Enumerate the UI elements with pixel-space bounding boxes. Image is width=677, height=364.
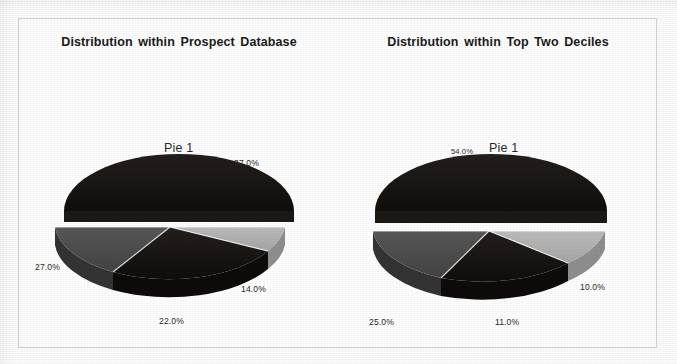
pie-right-slice-54-wall	[375, 211, 607, 223]
clipped-header-strip: ghost clipped header line	[0, 0, 677, 9]
pie-left-svg	[25, 105, 335, 335]
pie-left-label-14: 14.0%	[241, 284, 266, 294]
pie-left-slice-37-wall-left	[64, 211, 179, 222]
pie-series-label-right: Pie 1	[489, 141, 519, 155]
pie-right-slice-54	[375, 154, 607, 211]
figure-frame: Distribution within Prospect Database	[18, 18, 657, 348]
chart-title-left: Distribution within Prospect Database	[19, 35, 339, 49]
pie-right-svg	[345, 105, 653, 335]
pie-left-slice-37	[64, 154, 294, 211]
pie-left-label-27: 27.0%	[35, 262, 60, 272]
pie-chart-left	[25, 105, 335, 335]
pie-left-exploded-group	[64, 154, 294, 283]
pie-right-exploded-group	[375, 154, 607, 223]
pie-left-slice-37-wall-right	[179, 211, 294, 222]
chart-panel-top-two-deciles: Distribution within Top Two Deciles	[339, 19, 657, 349]
pie-right-label-11: 11.0%	[495, 317, 519, 327]
scanned-page: ghost clipped header line Distribution w…	[0, 0, 677, 364]
pie-left-label-22: 22.0%	[159, 316, 184, 326]
pie-right-label-10: 10.0%	[580, 282, 605, 292]
pie-chart-right	[345, 105, 653, 335]
pie-right-label-54: 54.0%	[451, 147, 473, 156]
pie-left-label-37: 37.0%	[234, 158, 259, 168]
chart-panel-prospect-database: Distribution within Prospect Database	[19, 19, 339, 349]
pie-right-label-25: 25.0%	[369, 317, 394, 327]
chart-title-right: Distribution within Top Two Deciles	[339, 35, 657, 49]
pie-series-label-left: Pie 1	[164, 141, 194, 155]
